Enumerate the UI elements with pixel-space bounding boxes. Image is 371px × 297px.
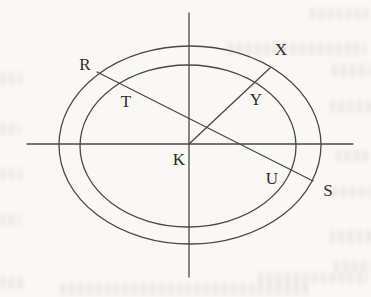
geometry-figure: R X T Y K U S xyxy=(0,0,371,297)
point-label-K: K xyxy=(173,150,186,169)
scanned-book-page: R X T Y K U S xyxy=(0,0,371,297)
point-label-R: R xyxy=(79,55,91,74)
outer-ellipse xyxy=(59,46,321,244)
chord-R-S xyxy=(97,72,313,181)
point-label-S: S xyxy=(323,181,332,200)
point-label-U: U xyxy=(266,169,278,188)
inner-ellipse xyxy=(80,65,296,227)
point-label-X: X xyxy=(275,40,287,59)
point-label-Y: Y xyxy=(250,90,262,109)
point-label-T: T xyxy=(121,92,132,111)
